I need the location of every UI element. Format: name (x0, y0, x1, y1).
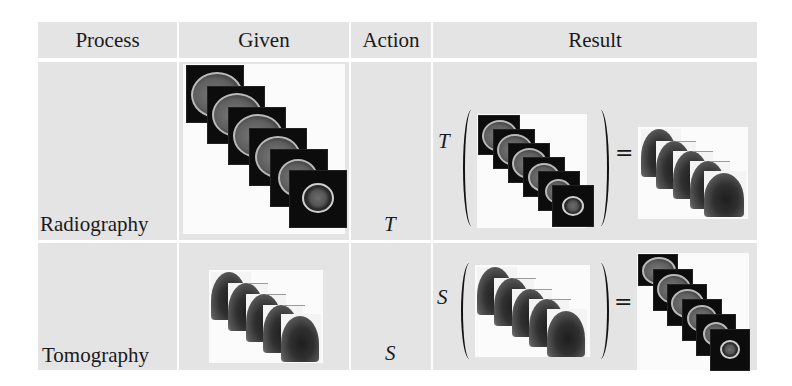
row1-result-cell: T = (433, 62, 757, 240)
header-result: Result (433, 22, 757, 58)
radiograph-stack (209, 270, 323, 363)
row2-process-cell: Tomography (38, 243, 177, 370)
header-process: Process (38, 22, 177, 58)
row2-given-cell (179, 243, 349, 370)
left-paren-icon (461, 263, 475, 359)
mri-slice (553, 186, 593, 226)
radiograph (547, 309, 587, 357)
header-action: Action (351, 22, 431, 58)
mri-slice (711, 330, 749, 370)
header-given-label: Given (238, 28, 289, 53)
equals-sign: = (614, 289, 632, 314)
header-action-label: Action (362, 28, 419, 53)
header-result-label: Result (568, 28, 622, 53)
process-table: Process Given Action Result Radiography … (38, 22, 757, 370)
row1-process-cell: Radiography (38, 62, 177, 240)
row2-action-label: S (385, 341, 396, 366)
row2-result-cell: S = (433, 243, 757, 370)
radiograph-stack (638, 127, 748, 219)
row2-process-label: Tomography (42, 343, 149, 368)
right-paren-icon (595, 263, 609, 359)
mri-slice-stack (637, 253, 749, 370)
radiograph-stack (475, 265, 590, 357)
mri-slice (290, 171, 346, 227)
radiograph (281, 314, 321, 362)
equals-sign: = (615, 140, 633, 165)
radiograph (704, 171, 746, 217)
header-given: Given (179, 22, 349, 58)
header-process-label: Process (75, 28, 139, 53)
mri-slice-stack (477, 114, 587, 228)
row1-given-cell (179, 62, 349, 240)
row1-action-cell: T (351, 62, 431, 240)
left-paren-icon (463, 110, 477, 226)
row1-operator-label: T (438, 129, 450, 154)
right-paren-icon (595, 110, 609, 226)
row2-operator-label: S (437, 285, 448, 310)
row2-action-cell: S (351, 243, 431, 370)
row1-action-label: T (384, 212, 396, 237)
mri-slice-stack (183, 64, 345, 234)
row1-process-label: Radiography (40, 212, 148, 237)
